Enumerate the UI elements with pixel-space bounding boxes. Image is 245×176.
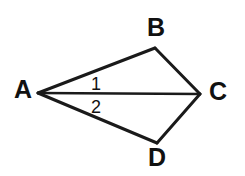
- angle-label-1: 1: [91, 74, 101, 94]
- vertex-label-c: C: [209, 77, 227, 105]
- diagonal-ac: [38, 93, 200, 94]
- angle-label-2: 2: [91, 97, 101, 117]
- edge-bc: [155, 48, 200, 94]
- edge-cd: [157, 94, 200, 143]
- vertex-label-b: B: [147, 13, 165, 41]
- geometry-diagram: A B C D 1 2: [0, 0, 245, 176]
- geometry-canvas: A B C D 1 2: [0, 0, 245, 176]
- vertex-label-d: D: [148, 143, 166, 171]
- vertex-label-a: A: [14, 75, 32, 103]
